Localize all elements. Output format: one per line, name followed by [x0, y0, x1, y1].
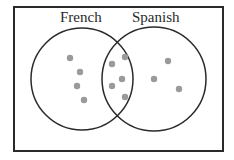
member-dot — [81, 97, 87, 103]
member-dot — [122, 54, 128, 60]
member-dot — [109, 61, 115, 67]
intersection-region-dots — [109, 54, 128, 100]
member-dot — [67, 55, 73, 61]
member-dot — [151, 76, 157, 82]
member-dot — [77, 69, 83, 75]
member-dot — [122, 94, 128, 100]
spanish-set-label: Spanish — [132, 9, 180, 25]
member-dot — [109, 83, 115, 89]
french-only-region-dots — [67, 55, 87, 103]
spanish-only-region-dots — [151, 58, 182, 92]
universal-set-border — [14, 7, 223, 151]
venn-diagram: French Spanish — [0, 0, 234, 160]
member-dot — [176, 86, 182, 92]
french-set-circle — [31, 28, 133, 130]
member-dot — [119, 76, 125, 82]
member-dot — [74, 83, 80, 89]
member-dot — [165, 58, 171, 64]
french-set-label: French — [60, 9, 102, 25]
